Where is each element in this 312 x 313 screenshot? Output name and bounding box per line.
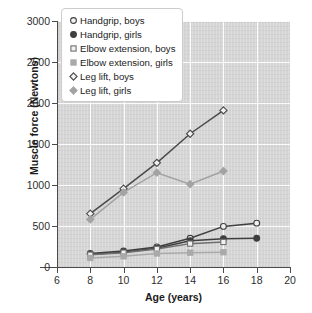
y-tick-mark [52, 144, 57, 145]
y-tick-label: 1500 [2, 139, 50, 149]
legend-item-label: Handgrip, boys [80, 15, 145, 26]
y-tick-label: 2000 [2, 98, 50, 108]
legend-item-3[interactable]: Elbow extension, boys [67, 41, 175, 55]
x-tick-mark [124, 268, 125, 273]
x-tick-label: 20 [278, 275, 302, 286]
y-axis-line [57, 21, 58, 268]
data-point [153, 169, 160, 176]
data-point [88, 255, 93, 260]
diamond-open-icon [67, 71, 80, 82]
x-axis-title: Age (years) [57, 291, 290, 303]
legend-item-6[interactable]: Leg lift, girls [67, 83, 175, 97]
y-tick-label: 3000 [2, 16, 50, 26]
x-tick-label: 8 [78, 275, 102, 286]
series-line [90, 171, 223, 219]
x-tick-mark [257, 268, 258, 273]
data-point [121, 254, 126, 259]
data-point [221, 239, 226, 244]
y-axis-title: Muscle force (Newtons) [28, 16, 40, 216]
data-point [221, 224, 227, 230]
y-tick-mark [52, 226, 57, 227]
y-tick-label: 2500 [2, 57, 50, 67]
y-tick-labels: 050010001500200025003000 [0, 0, 50, 313]
y-tick-label: 1000 [2, 180, 50, 190]
legend-item-label: Elbow extension, girls [80, 57, 173, 68]
data-point [254, 235, 260, 241]
x-tick-label: 6 [45, 275, 69, 286]
x-tick-mark [290, 268, 291, 273]
legend-item-1[interactable]: Handgrip, boys [67, 13, 175, 27]
square-open-icon [67, 43, 80, 54]
data-point [188, 250, 193, 255]
y-tick-mark [52, 62, 57, 63]
y-tick-mark [52, 103, 57, 104]
x-tick-mark [57, 268, 58, 273]
diamond-filled-icon [67, 85, 80, 96]
data-point [154, 251, 159, 256]
x-tick-label: 14 [178, 275, 202, 286]
x-tick-mark [157, 268, 158, 273]
x-tick-mark [190, 268, 191, 273]
legend-item-label: Leg lift, boys [80, 71, 134, 82]
legend-item-4[interactable]: Elbow extension, girls [67, 55, 175, 69]
x-tick-label: 12 [145, 275, 169, 286]
y-tick-mark [52, 21, 57, 22]
x-tick-label: 16 [211, 275, 235, 286]
legend-item-2[interactable]: Handgrip, girls [67, 27, 175, 41]
y-tick-label: 500 [2, 221, 50, 231]
data-point [187, 181, 194, 188]
x-tick-mark [223, 268, 224, 273]
data-point [221, 250, 226, 255]
data-point [188, 241, 193, 246]
x-axis-line [40, 267, 291, 268]
data-point [220, 167, 227, 174]
legend: Handgrip, boysHandgrip, girlsElbow exten… [61, 8, 183, 102]
series-6 [87, 167, 227, 223]
y-tick-label: 0 [2, 262, 50, 272]
series-5 [87, 107, 227, 218]
circle-open-icon [67, 15, 80, 26]
circle-filled-icon [67, 29, 80, 40]
legend-item-label: Elbow extension, boys [80, 43, 175, 54]
x-tick-label: 18 [245, 275, 269, 286]
series-4 [88, 250, 226, 261]
x-tick-mark [90, 268, 91, 273]
y-tick-mark [52, 185, 57, 186]
muscle-force-chart: 050010001500200025003000 68101214161820 … [0, 0, 312, 313]
legend-item-5[interactable]: Leg lift, boys [67, 69, 175, 83]
data-point [254, 220, 260, 226]
legend-item-label: Leg lift, girls [80, 85, 131, 96]
x-tick-label: 10 [112, 275, 136, 286]
square-filled-icon [67, 57, 80, 68]
legend-item-label: Handgrip, girls [80, 29, 142, 40]
